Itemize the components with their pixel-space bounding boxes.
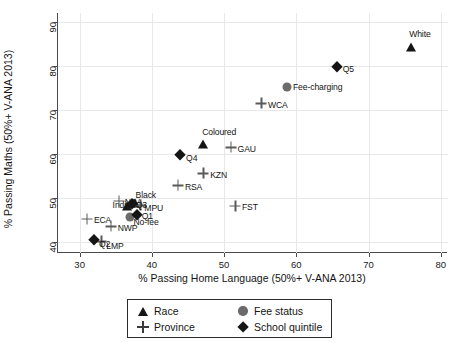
data-point-plus	[225, 142, 236, 153]
legend-item-province[interactable]: Province	[136, 320, 195, 334]
data-point-label: NWP	[118, 223, 138, 233]
plus-legend-icon	[136, 320, 150, 334]
plus-marker-icon	[198, 168, 209, 179]
y-axis-tick-label: 80	[48, 66, 59, 77]
y-axis-tick-label: 70	[48, 110, 59, 121]
legend-item-race[interactable]: Race	[136, 304, 179, 318]
data-point-diamond	[133, 211, 141, 219]
data-point-diamond	[333, 63, 341, 71]
data-point-label: Q2	[99, 239, 110, 249]
plus-marker-icon	[105, 221, 116, 232]
legend-item-fee-status[interactable]: Fee status	[236, 304, 303, 318]
legend-item-school-quintile[interactable]: School quintile	[236, 320, 322, 334]
diamond-glyph	[237, 321, 249, 333]
scatter-chart-figure: % Passing Maths (50%+ V-ANA 2013) % Pass…	[0, 0, 458, 343]
x-axis-tick	[441, 253, 442, 257]
gridline-vertical	[296, 13, 297, 253]
y-axis-tick-label: 90	[48, 22, 59, 33]
x-axis-title: % Passing Home Language (50%+ V-ANA 2013…	[138, 272, 365, 284]
data-point-plus	[105, 221, 116, 232]
data-point-plus	[113, 195, 124, 206]
triangle-legend-icon	[136, 304, 150, 318]
data-point-label: Fee-charging	[293, 82, 342, 92]
circle-glyph	[238, 306, 247, 315]
x-axis-tick	[369, 253, 370, 257]
data-point-diamond	[90, 236, 98, 244]
data-point-label: Coloured	[202, 127, 236, 137]
circle-legend-icon	[236, 304, 250, 318]
diamond-marker-icon	[331, 61, 343, 73]
data-point-label: KZN	[210, 170, 227, 180]
y-axis-title: % Passing Maths (50%+ V-ANA 2013)	[2, 50, 14, 228]
y-axis-tick-label: 40	[48, 242, 59, 253]
triangle-marker-icon	[406, 42, 416, 51]
plus-marker-icon	[229, 200, 240, 211]
data-point-plus	[81, 213, 92, 224]
data-point-label: Q5	[343, 64, 354, 74]
plot-area: 405060708090304050607080WhiteColouredInd…	[57, 13, 447, 253]
gridline-horizontal	[58, 154, 448, 155]
gridline-horizontal	[58, 22, 448, 23]
gridline-horizontal	[58, 110, 448, 111]
plus-marker-icon	[172, 180, 183, 191]
x-axis-tick-label: 50	[219, 259, 230, 270]
x-axis-tick-label: 60	[291, 259, 302, 270]
plus-glyph	[137, 321, 149, 333]
legend-item-label: Province	[154, 321, 195, 333]
data-point-triangle	[198, 140, 208, 149]
x-axis-tick	[296, 253, 297, 257]
x-axis-tick-label: 30	[74, 259, 85, 270]
diamond-legend-icon	[236, 320, 250, 334]
data-point-diamond	[176, 151, 184, 159]
x-axis-tick-label: 70	[363, 259, 374, 270]
triangle-marker-icon	[198, 140, 208, 149]
gridline-horizontal	[58, 66, 448, 67]
data-point-label: Q1	[142, 211, 153, 221]
plus-marker-icon	[113, 195, 124, 206]
x-axis-tick-label: 40	[147, 259, 158, 270]
plus-marker-icon	[81, 213, 92, 224]
triangle-glyph	[138, 307, 148, 316]
x-axis-tick	[80, 253, 81, 257]
diamond-marker-icon	[174, 149, 186, 161]
gridline-vertical	[369, 13, 370, 253]
data-point-plus	[172, 180, 183, 191]
plus-marker-icon	[225, 142, 236, 153]
legend-item-label: Race	[154, 305, 179, 317]
x-axis-tick	[152, 253, 153, 257]
data-point-plus	[229, 200, 240, 211]
legend-item-label: Fee status	[254, 305, 303, 317]
data-point-triangle	[406, 42, 416, 51]
x-axis-tick-label: 80	[435, 259, 446, 270]
data-point-label: Q4	[186, 153, 197, 163]
data-point-label: FST	[242, 202, 258, 212]
data-point-diamond	[127, 200, 135, 208]
data-point-label: GAU	[238, 144, 256, 154]
data-point-plus	[255, 98, 266, 109]
data-point-circle	[282, 82, 291, 91]
x-axis-tick	[224, 253, 225, 257]
legend-item-label: School quintile	[254, 321, 322, 333]
data-point-label: RSA	[185, 182, 202, 192]
data-point-label: White	[409, 29, 430, 39]
y-axis-tick-label: 50	[48, 198, 59, 209]
y-axis-tick-label: 60	[48, 154, 59, 165]
plus-marker-icon	[255, 98, 266, 109]
data-point-label: Q3	[136, 200, 147, 210]
data-point-label: WCA	[268, 100, 288, 110]
data-point-plus	[198, 168, 209, 179]
gridline-vertical	[441, 13, 442, 253]
chart-legend: RaceFee statusProvinceSchool quintile	[127, 299, 332, 338]
circle-marker-icon	[282, 82, 291, 91]
